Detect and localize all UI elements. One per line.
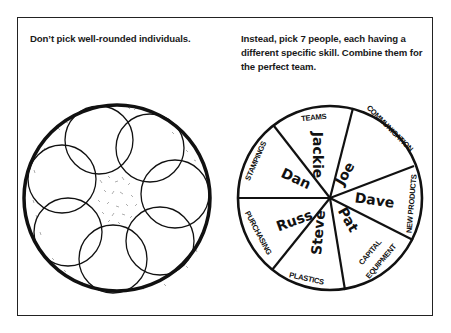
individual-circle xyxy=(126,207,194,275)
team-pie-diagram: TEAMS COMMUNICATION NEW PRODUCTS CAPITAL… xyxy=(238,103,422,290)
outer-circle xyxy=(24,105,210,291)
person-name-jackie: Jackie xyxy=(310,131,326,179)
figure-canvas: TEAMS COMMUNICATION NEW PRODUCTS CAPITAL… xyxy=(0,0,451,333)
individual-circle xyxy=(28,145,96,213)
individual-circle xyxy=(65,106,133,174)
well-rounded-diagram xyxy=(24,105,210,293)
